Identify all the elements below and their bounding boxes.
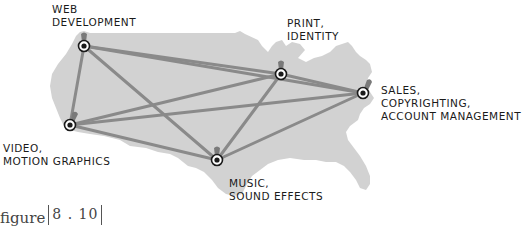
label-line: WEB [52,3,136,16]
caption-divider [48,205,49,225]
label-line: MUSIC, [229,177,323,190]
label-line: COPYRIGHTING, [381,97,521,110]
caption-word: figure [0,209,45,227]
label-line: DEVELOPMENT [52,16,136,29]
label-music: MUSIC, SOUND EFFECTS [229,177,323,203]
label-print-identity: PRINT, IDENTITY [287,17,339,43]
label-line: SOUND EFFECTS [229,190,323,203]
us-map-shape [50,31,374,196]
label-line: MOTION GRAPHICS [3,155,110,168]
caption-number: 8 . 10 [52,206,98,222]
label-sales: SALES, COPYRIGHTING, ACCOUNT MANAGEMENT [381,84,521,123]
figure-caption: figure8 . 10 [0,205,105,227]
label-line: PRINT, [287,17,339,30]
label-video: VIDEO, MOTION GRAPHICS [3,142,110,168]
label-line: SALES, [381,84,521,97]
label-line: IDENTITY [287,30,339,43]
label-web-development: WEB DEVELOPMENT [52,3,136,29]
label-line: VIDEO, [3,142,110,155]
caption-divider [101,205,102,225]
label-line: ACCOUNT MANAGEMENT [381,110,521,123]
